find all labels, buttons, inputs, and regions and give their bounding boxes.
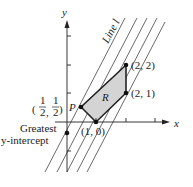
x-axis-arrow-icon bbox=[162, 120, 170, 125]
svg-text:2: 2 bbox=[53, 106, 59, 118]
vertex-p bbox=[79, 105, 84, 110]
greatest-label-line1: Greatest bbox=[20, 122, 57, 134]
vertex-2-1 bbox=[124, 91, 129, 96]
right-paren: ) bbox=[59, 103, 63, 116]
svg-text:1: 1 bbox=[40, 94, 46, 106]
region-label: R bbox=[101, 91, 109, 103]
x-axis-label: x bbox=[173, 117, 179, 129]
left-paren: ( bbox=[32, 103, 36, 116]
point-p-label: P bbox=[68, 101, 76, 113]
vertex-2-2-label: (2, 2) bbox=[131, 59, 155, 72]
vertex-1-0-label: (1, 0) bbox=[81, 125, 105, 138]
y-axis-label: y bbox=[61, 6, 67, 18]
point-p-coordinates: ( 1 2 , 1 2 ) bbox=[32, 94, 63, 118]
greatest-label-line2: y-intercept bbox=[1, 134, 49, 146]
svg-text:2: 2 bbox=[40, 106, 46, 118]
greatest-intercept-point bbox=[65, 131, 70, 136]
vertex-2-1-label: (2, 1) bbox=[131, 87, 155, 100]
vertex-1-0 bbox=[94, 120, 99, 125]
diagram-canvas: y x Line l R (2, 2) (2, 1) (1, 0) P ( 1 … bbox=[0, 0, 193, 187]
svg-text:1: 1 bbox=[53, 94, 59, 106]
y-axis-arrow-icon bbox=[65, 20, 70, 28]
vertex-2-2 bbox=[124, 63, 129, 68]
svg-text:,: , bbox=[46, 106, 49, 118]
